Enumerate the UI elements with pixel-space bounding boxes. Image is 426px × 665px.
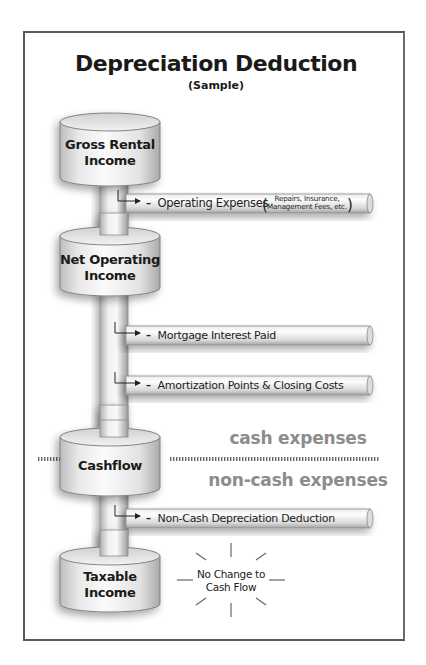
stage-label: Net Operating bbox=[60, 252, 160, 267]
svg-text:– Mortgage Interest Paid: – Mortgage Interest Paid bbox=[146, 329, 276, 342]
deduction-label: Operating Expenses bbox=[158, 196, 269, 210]
minus-sign: – bbox=[146, 330, 151, 341]
svg-text:– Non-Cash Depreciation De: – Non-Cash Depreciation Deduction bbox=[146, 512, 335, 525]
deduction-note-line2: Management Fees, etc. bbox=[267, 202, 347, 211]
stage-label: Income bbox=[84, 268, 136, 283]
close-paren: ) bbox=[347, 196, 353, 214]
depreciation-diagram: Depreciation Deduction (Sample) – Operat… bbox=[0, 0, 426, 665]
stage-label: Income bbox=[84, 585, 136, 600]
stage-label: Taxable bbox=[83, 569, 137, 584]
stage-label: Gross Rental bbox=[65, 137, 155, 152]
starburst-icon bbox=[177, 543, 285, 617]
diagram-subtitle: (Sample) bbox=[188, 79, 244, 92]
cylinder-cashflow bbox=[60, 405, 160, 496]
stage-label: Cashflow bbox=[78, 458, 142, 473]
callout-line1: No Change to bbox=[197, 568, 265, 580]
cash-expenses-label: cash expenses bbox=[229, 428, 366, 448]
minus-sign: – bbox=[146, 513, 151, 524]
deduction-label: Amortization Points & Closing Costs bbox=[158, 379, 345, 392]
non-cash-expenses-label: non-cash expenses bbox=[208, 470, 387, 490]
callout-line2: Cash Flow bbox=[206, 581, 257, 593]
minus-sign: – bbox=[146, 198, 151, 209]
svg-text:– Amortization Points & Cl: – Amortization Points & Closing Costs bbox=[146, 379, 344, 392]
stage-label: Income bbox=[84, 153, 136, 168]
minus-sign: – bbox=[146, 380, 151, 391]
deduction-label: Mortgage Interest Paid bbox=[158, 329, 276, 342]
deduction-label: Non-Cash Depreciation Deduction bbox=[158, 512, 336, 525]
svg-text:– Operating Expenses: – Operating Expenses bbox=[146, 196, 268, 210]
diagram-title: Depreciation Deduction bbox=[75, 51, 357, 76]
